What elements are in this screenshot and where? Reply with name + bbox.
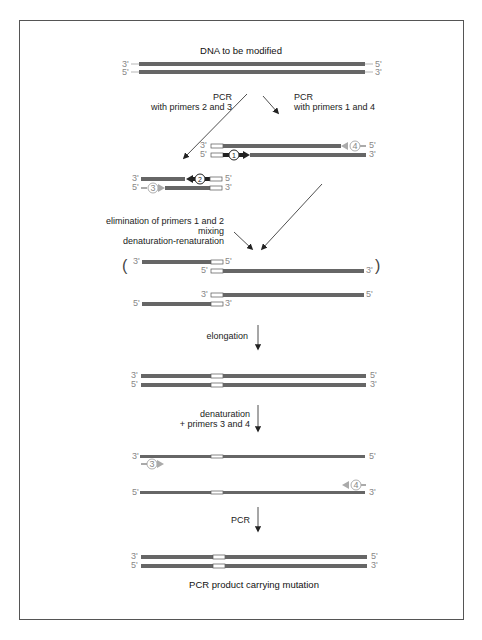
svg-text:5': 5': [132, 487, 139, 497]
svg-text:5': 5': [366, 289, 373, 299]
svg-text:5': 5': [200, 149, 207, 159]
hybrid-productive: 3' 5' 5' 3': [133, 289, 373, 308]
pcr-right-label: PCR: [294, 92, 314, 102]
svg-text:3': 3': [371, 560, 378, 570]
product-2-3: 3' 2 5' 5' 3 3': [132, 173, 232, 193]
svg-text:(: (: [122, 257, 128, 274]
final-product-dna: 3' 5' 5' 3': [131, 551, 378, 570]
title-text: DNA to be modified: [200, 45, 282, 56]
arrow-right-pcr: [263, 96, 278, 113]
original-dna: 3' 5' 5' 3': [122, 59, 382, 77]
arrow-from-left-product: [234, 232, 252, 249]
svg-text:5': 5': [131, 379, 138, 389]
denaturation-renaturation-label: denaturation-renaturation: [123, 236, 224, 246]
svg-text:4: 4: [353, 480, 358, 490]
svg-text:): ): [375, 257, 380, 274]
svg-text:3': 3': [201, 289, 208, 299]
mixing-label: mixing: [198, 226, 224, 236]
elongation-label: elongation: [206, 331, 248, 341]
svg-text:3': 3': [225, 298, 232, 308]
svg-text:3': 3': [370, 379, 377, 389]
pcr-left-label: PCR: [213, 92, 233, 102]
product-1-4: 3' 4 5' 5' 1 3': [200, 140, 376, 160]
svg-text:3: 3: [150, 183, 155, 193]
arrow-from-right-product: [262, 184, 322, 249]
denatured-strands: 3' 5' 3 4 5' 3': [132, 451, 376, 497]
svg-text:3': 3': [225, 182, 232, 192]
svg-text:3: 3: [149, 459, 154, 469]
denaturation-label: denaturation: [200, 409, 250, 419]
svg-text:3': 3': [132, 451, 139, 461]
pcr-left-primers: with primers 2 and 3: [150, 102, 232, 112]
svg-text:3': 3': [369, 149, 376, 159]
pcr-final-label: PCR: [231, 515, 251, 525]
elimination-label: elimination of primers 1 and 2: [106, 216, 224, 226]
footer-caption: PCR product carrying mutation: [189, 579, 319, 590]
svg-text:3': 3': [369, 487, 376, 497]
svg-text:3': 3': [366, 265, 373, 275]
svg-text:3': 3': [375, 67, 382, 77]
pcr-right-primers: with primers 1 and 4: [293, 102, 375, 112]
primers-3-4-label: + primers 3 and 4: [180, 419, 250, 429]
svg-text:1: 1: [232, 152, 236, 159]
svg-text:3': 3': [133, 256, 140, 266]
svg-text:5': 5': [225, 256, 232, 266]
svg-text:2: 2: [198, 176, 202, 183]
elongated-dna: 3' 5' 5' 3': [131, 370, 377, 389]
svg-text:5': 5': [132, 182, 139, 192]
svg-text:5': 5': [131, 560, 138, 570]
svg-text:4: 4: [352, 141, 357, 151]
svg-text:5': 5': [369, 451, 376, 461]
svg-text:5': 5': [122, 67, 129, 77]
svg-text:5': 5': [201, 265, 208, 275]
hybrid-nonproductive: ( 3' 5' 5' 3' ): [122, 256, 380, 275]
svg-text:5': 5': [133, 298, 140, 308]
mutagenesis-diagram: DNA to be modified 3' 5' 5' 3' PCR with …: [0, 0, 482, 640]
